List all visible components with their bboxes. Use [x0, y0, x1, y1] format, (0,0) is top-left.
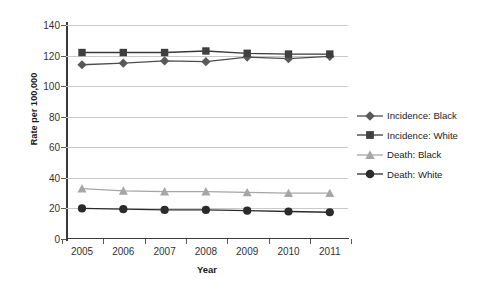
y-tickmark — [61, 208, 66, 209]
y-tick-label: 100 — [18, 81, 60, 92]
legend-marker-circle-icon — [356, 166, 386, 182]
y-tick-label: 140 — [18, 20, 60, 31]
x-tick-label: 2010 — [277, 246, 299, 257]
x-tickmark — [227, 239, 228, 244]
y-tickmark — [61, 178, 66, 179]
x-axis-line — [66, 238, 349, 240]
plot-area — [66, 25, 348, 239]
legend-marker-diamond-icon — [356, 108, 386, 124]
legend-item: Incidence: Black — [356, 106, 484, 126]
y-tick-label: 60 — [18, 142, 60, 153]
x-tickmark — [145, 239, 146, 244]
x-tickmark — [269, 239, 270, 244]
gridline — [66, 56, 348, 57]
y-tickmark — [61, 86, 66, 87]
x-tickmark — [351, 239, 352, 244]
x-tickmark — [310, 239, 311, 244]
x-tick-label: 2007 — [153, 246, 175, 257]
x-tickmark — [62, 239, 63, 244]
x-tick-label: 2006 — [112, 246, 134, 257]
y-tick-label: 0 — [18, 234, 60, 245]
y-tick-label: 80 — [18, 111, 60, 122]
legend-item: Incidence: White — [356, 126, 484, 146]
x-tick-label: 2011 — [319, 246, 341, 257]
legend-marker-square-icon — [356, 127, 386, 143]
y-tickmark — [61, 56, 66, 57]
legend-label: Death: White — [386, 169, 442, 180]
y-tickmark — [61, 25, 66, 26]
gridline — [66, 86, 348, 87]
y-axis-tick-labels: 020406080100120140 — [18, 0, 60, 299]
x-axis-title: Year — [66, 264, 348, 275]
gridline — [66, 25, 348, 26]
y-tickmark — [61, 147, 66, 148]
y-tickmark — [61, 117, 66, 118]
x-tick-label: 2009 — [236, 246, 258, 257]
gridline — [66, 117, 348, 118]
chart-legend: Incidence: BlackIncidence: WhiteDeath: B… — [356, 106, 484, 184]
y-tick-label: 20 — [18, 203, 60, 214]
chart-container: Rate per 100,000 020406080100120140 2005… — [0, 0, 485, 299]
legend-item: Death: White — [356, 165, 484, 185]
x-tick-label: 2005 — [71, 246, 93, 257]
gridline — [66, 147, 348, 148]
x-tickmark — [103, 239, 104, 244]
legend-item: Death: Black — [356, 145, 484, 165]
legend-label: Death: Black — [386, 149, 441, 160]
gridline — [66, 208, 348, 209]
x-tick-label: 2008 — [195, 246, 217, 257]
y-tick-label: 120 — [18, 50, 60, 61]
gridline — [66, 178, 348, 179]
x-tickmark — [186, 239, 187, 244]
legend-label: Incidence: Black — [386, 110, 457, 121]
legend-label: Incidence: White — [386, 130, 458, 141]
legend-marker-triangle-icon — [356, 147, 386, 163]
y-tick-label: 40 — [18, 172, 60, 183]
